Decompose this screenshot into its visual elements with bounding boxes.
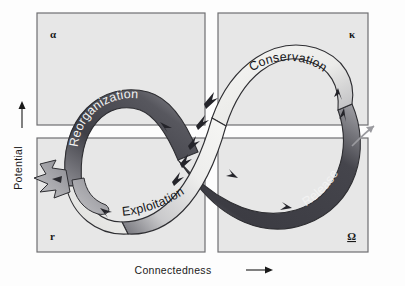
quadrant-label-r: r xyxy=(50,230,55,242)
y-axis: Potential xyxy=(12,101,26,190)
x-axis-arrowhead-icon xyxy=(265,267,273,274)
y-axis-arrowhead-icon xyxy=(19,101,26,109)
x-axis: Connectedness xyxy=(135,264,273,276)
figure-canvas: α κ r Ω Reorganization Conservation Expl… xyxy=(0,0,405,286)
flow-arrow-icon xyxy=(204,92,218,109)
y-axis-label: Potential xyxy=(12,146,24,190)
quadrant-label-omega: Ω xyxy=(347,230,356,242)
quadrant-label-kappa: κ xyxy=(349,28,356,40)
quadrant-label-alpha: α xyxy=(50,28,57,40)
adaptive-cycle-figure: α κ r Ω Reorganization Conservation Expl… xyxy=(0,0,405,286)
x-axis-label: Connectedness xyxy=(135,264,212,276)
